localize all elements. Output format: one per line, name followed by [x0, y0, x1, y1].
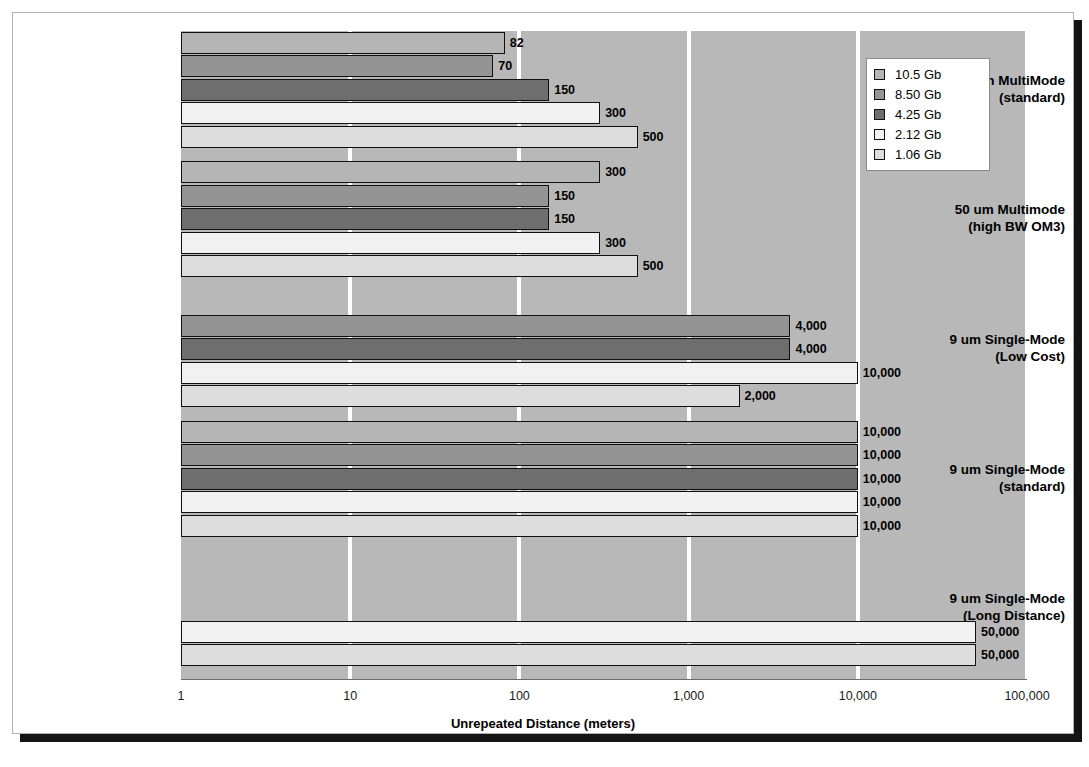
bar[interactable]	[181, 79, 549, 101]
legend-item[interactable]: 4.25 Gb	[874, 104, 982, 124]
legend-item[interactable]: 10.5 Gb	[874, 64, 982, 84]
category-label-line-2: (high BW OM3)	[913, 218, 1065, 235]
bar-value-label: 300	[605, 166, 626, 179]
bar[interactable]	[181, 208, 549, 230]
category-label-line-2: (standard)	[913, 478, 1065, 495]
legend-item[interactable]: 2.12 Gb	[874, 124, 982, 144]
bar-value-label: 150	[554, 213, 575, 226]
x-tick-label: 1	[178, 689, 185, 703]
legend-label: 4.25 Gb	[895, 107, 941, 122]
bar[interactable]	[181, 102, 600, 124]
bar[interactable]	[181, 161, 600, 183]
category-label: 9 um Single-Mode(Long Distance)	[913, 590, 1073, 624]
bar-value-label: 4,000	[795, 343, 826, 356]
legend-label: 2.12 Gb	[895, 127, 941, 142]
bar-value-label: 150	[554, 84, 575, 97]
legend-swatch-icon	[874, 129, 885, 140]
bar-value-label: 10,000	[863, 426, 901, 439]
bar-value-label: 82	[510, 37, 524, 50]
bar-value-label: 50,000	[981, 626, 1019, 639]
chart-legend[interactable]: 10.5 Gb8.50 Gb4.25 Gb2.12 Gb1.06 Gb	[866, 58, 990, 171]
bar[interactable]	[181, 185, 549, 207]
bar[interactable]	[181, 385, 740, 407]
bar-value-label: 150	[554, 190, 575, 203]
bar[interactable]	[181, 338, 790, 360]
category-label-line-2: (Low Cost)	[913, 348, 1065, 365]
bar[interactable]	[181, 644, 976, 666]
bar[interactable]	[181, 315, 790, 337]
x-axis-line	[181, 679, 1027, 680]
category-label: 9 um Single-Mode(Low Cost)	[913, 331, 1073, 365]
category-label-line-1: 9 um Single-Mode	[913, 461, 1065, 478]
gridline	[856, 31, 860, 679]
legend-swatch-icon	[874, 89, 885, 100]
category-label: 50 um Multimode(high BW OM3)	[913, 201, 1073, 235]
bar[interactable]	[181, 468, 858, 490]
x-tick-label: 10,000	[839, 689, 877, 703]
bar-value-label: 10,000	[863, 367, 901, 380]
legend-label: 1.06 Gb	[895, 147, 941, 162]
bar-value-label: 4,000	[795, 320, 826, 333]
bar[interactable]	[181, 444, 858, 466]
bar[interactable]	[181, 55, 493, 77]
category-label-line-1: 9 um Single-Mode	[913, 590, 1065, 607]
bar-value-label: 10,000	[863, 520, 901, 533]
category-label-line-1: 9 um Single-Mode	[913, 331, 1065, 348]
bar[interactable]	[181, 232, 600, 254]
bar[interactable]	[181, 32, 505, 54]
bar[interactable]	[181, 621, 976, 643]
chart-screenshot: 50 um MultiMode(standard)50 um Multimode…	[0, 0, 1089, 767]
bar-value-label: 500	[643, 260, 664, 273]
bar[interactable]	[181, 126, 638, 148]
x-tick-label: 100,000	[1004, 689, 1049, 703]
legend-label: 8.50 Gb	[895, 87, 941, 102]
x-tick-label: 100	[509, 689, 530, 703]
legend-label: 10.5 Gb	[895, 67, 941, 82]
bar[interactable]	[181, 255, 638, 277]
bar[interactable]	[181, 491, 858, 513]
bar[interactable]	[181, 421, 858, 443]
x-tick-label: 10	[343, 689, 357, 703]
bar-value-label: 500	[643, 131, 664, 144]
bar-value-label: 300	[605, 107, 626, 120]
bar-value-label: 10,000	[863, 473, 901, 486]
bar-value-label: 10,000	[863, 496, 901, 509]
legend-swatch-icon	[874, 69, 885, 80]
bar[interactable]	[181, 515, 858, 537]
bar-value-label: 70	[498, 60, 512, 73]
bar-value-label: 50,000	[981, 649, 1019, 662]
bar[interactable]	[181, 362, 858, 384]
category-label-line-1: 50 um Multimode	[913, 201, 1065, 218]
bar-value-label: 2,000	[745, 390, 776, 403]
x-axis-title: Unrepeated Distance (meters)	[13, 716, 1073, 731]
bar-value-label: 10,000	[863, 449, 901, 462]
chart-card: 50 um MultiMode(standard)50 um Multimode…	[12, 12, 1074, 734]
legend-swatch-icon	[874, 109, 885, 120]
legend-item[interactable]: 1.06 Gb	[874, 144, 982, 164]
bar-value-label: 300	[605, 237, 626, 250]
legend-item[interactable]: 8.50 Gb	[874, 84, 982, 104]
category-label: 9 um Single-Mode(standard)	[913, 461, 1073, 495]
x-tick-label: 1,000	[673, 689, 704, 703]
legend-swatch-icon	[874, 149, 885, 160]
